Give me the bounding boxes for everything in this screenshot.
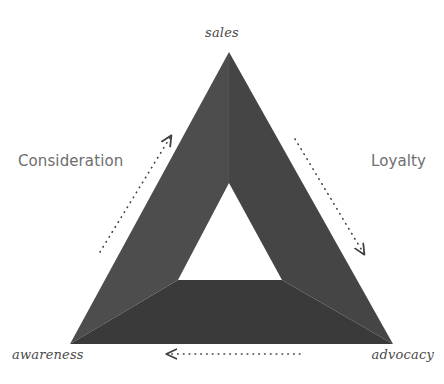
vertex-label-sales: sales bbox=[0, 25, 444, 40]
vertex-label-advocacy: advocacy bbox=[372, 347, 435, 362]
triangle-diagram-canvas bbox=[0, 0, 444, 384]
vertex-label-awareness: awareness bbox=[12, 347, 84, 362]
side-label-consideration: Consideration bbox=[18, 152, 123, 170]
triangle-diagram: sales awareness advocacy Consideration L… bbox=[0, 0, 444, 384]
side-label-loyalty: Loyalty bbox=[371, 152, 426, 170]
